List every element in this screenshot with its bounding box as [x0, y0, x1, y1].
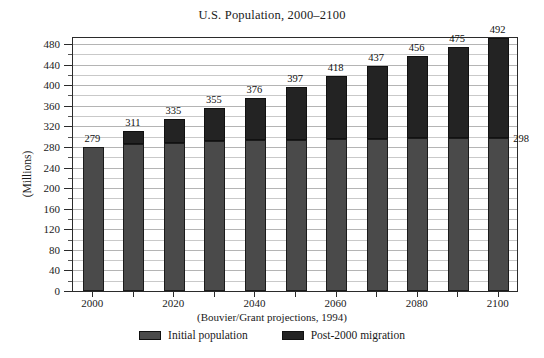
y-axis-tick-label: 320 [20, 120, 60, 132]
bar-value-label: 376 [234, 84, 274, 95]
y-axis-tick-label: 240 [20, 162, 60, 174]
bar-value-label: 311 [113, 117, 153, 128]
bar-segment-initial-population [367, 139, 388, 291]
bar [488, 38, 509, 291]
bar-segment-initial-population [164, 143, 185, 291]
y-axis-tick-label: 40 [20, 264, 60, 276]
x-axis-tick-label: 2040 [224, 297, 284, 309]
y-axis-tick-label: 400 [20, 79, 60, 91]
bar [164, 119, 185, 291]
y-axis-tick-label: 80 [20, 244, 60, 256]
x-axis-tick-label: 2100 [468, 297, 528, 309]
bar [407, 56, 428, 291]
y-axis-tick [64, 85, 72, 86]
base-value-annotation: 298 [513, 132, 529, 143]
bar-value-label: 397 [275, 73, 315, 84]
bar-value-label: 335 [153, 105, 193, 116]
bar-value-label: 456 [397, 42, 437, 53]
bar-segment-post-2000-migration [448, 47, 469, 138]
y-axis-tick [64, 229, 72, 230]
x-axis-tick-label: 2020 [143, 297, 203, 309]
y-axis-tick [64, 65, 72, 66]
y-axis-tick [64, 168, 72, 169]
y-axis-tick [64, 44, 72, 45]
x-axis-tick-label: 2080 [387, 297, 447, 309]
x-axis-tick [214, 292, 215, 297]
source-note: (Bouvier/Grant projections, 1994) [0, 311, 544, 323]
y-axis-tick-label: 280 [20, 141, 60, 153]
bar-segment-initial-population [286, 140, 307, 291]
y-axis-tick [64, 126, 72, 127]
bar-segment-initial-population [448, 138, 469, 291]
bar [245, 98, 266, 291]
y-axis-tick [64, 106, 72, 107]
legend-item: Initial population [139, 329, 248, 341]
y-axis-tick-label: 480 [20, 38, 60, 50]
legend-swatch-mig [282, 331, 304, 340]
bar-segment-initial-population [326, 139, 347, 291]
bar-segment-post-2000-migration [367, 66, 388, 139]
bar-value-label: 475 [437, 33, 477, 44]
y-axis-tick-label: 440 [20, 59, 60, 71]
bar-segment-initial-population [407, 138, 428, 291]
bar-value-label: 355 [194, 94, 234, 105]
bar-value-label: 492 [478, 24, 518, 35]
y-axis-tick [64, 270, 72, 271]
y-axis-tick-label: 0 [20, 285, 60, 297]
y-axis-tick-label: 360 [20, 100, 60, 112]
legend-item: Post-2000 migration [282, 329, 405, 341]
legend-swatch-base [139, 331, 161, 340]
bar [83, 147, 104, 291]
bar-segment-post-2000-migration [164, 119, 185, 143]
y-axis-tick-label: 160 [20, 203, 60, 215]
y-axis-tick [64, 250, 72, 251]
y-axis-tick [64, 291, 72, 292]
bar-segment-initial-population [123, 144, 144, 291]
chart-title: U.S. Population, 2000–2100 [0, 8, 544, 23]
x-axis-tick [133, 292, 134, 297]
chart-legend: Initial populationPost-2000 migration [0, 329, 544, 341]
legend-label: Post-2000 migration [311, 329, 405, 341]
bar-value-label: 437 [356, 52, 396, 63]
y-axis-tick-label: 120 [20, 223, 60, 235]
y-axis-tick [64, 209, 72, 210]
gridline [73, 44, 517, 45]
x-axis-tick [295, 292, 296, 297]
bar [204, 108, 225, 291]
bar-segment-post-2000-migration [488, 38, 509, 138]
bar-segment-post-2000-migration [407, 56, 428, 138]
bar [367, 66, 388, 291]
y-axis-tick [64, 147, 72, 148]
legend-label: Initial population [168, 329, 248, 341]
bar-segment-initial-population [204, 141, 225, 291]
bar-segment-initial-population [245, 140, 266, 291]
bar-segment-post-2000-migration [245, 98, 266, 141]
y-axis-tick-label: 200 [20, 182, 60, 194]
bar-segment-post-2000-migration [123, 131, 144, 144]
bar-segment-post-2000-migration [204, 108, 225, 141]
bar [448, 47, 469, 291]
bar-value-label: 418 [316, 62, 356, 73]
chart-container: U.S. Population, 2000–2100 (Millions) 04… [0, 0, 544, 358]
bar-segment-initial-population [488, 138, 509, 291]
x-axis-tick-label: 2060 [306, 297, 366, 309]
x-axis-tick-label: 2000 [62, 297, 122, 309]
bar [326, 76, 347, 291]
x-axis-tick [457, 292, 458, 297]
x-axis-tick [376, 292, 377, 297]
bar-segment-post-2000-migration [286, 87, 307, 140]
bar-value-label: 279 [72, 133, 112, 144]
bar-segment-initial-population [83, 147, 104, 291]
bar [123, 131, 144, 291]
y-axis-tick [64, 188, 72, 189]
bar [286, 87, 307, 291]
bar-segment-post-2000-migration [326, 76, 347, 139]
